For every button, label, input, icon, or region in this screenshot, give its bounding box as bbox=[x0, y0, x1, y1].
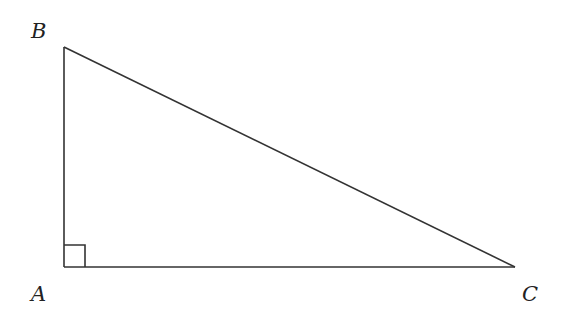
triangle-diagram: B A C bbox=[0, 0, 570, 333]
vertex-label-b: B bbox=[30, 19, 46, 43]
edge-bc bbox=[64, 47, 515, 267]
vertex-label-a: A bbox=[29, 282, 46, 306]
right-angle-marker bbox=[64, 245, 85, 267]
vertex-label-c: C bbox=[522, 282, 538, 306]
